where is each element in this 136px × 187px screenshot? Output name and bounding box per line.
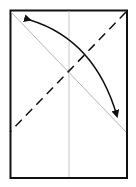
origami-diagram [0,0,136,187]
